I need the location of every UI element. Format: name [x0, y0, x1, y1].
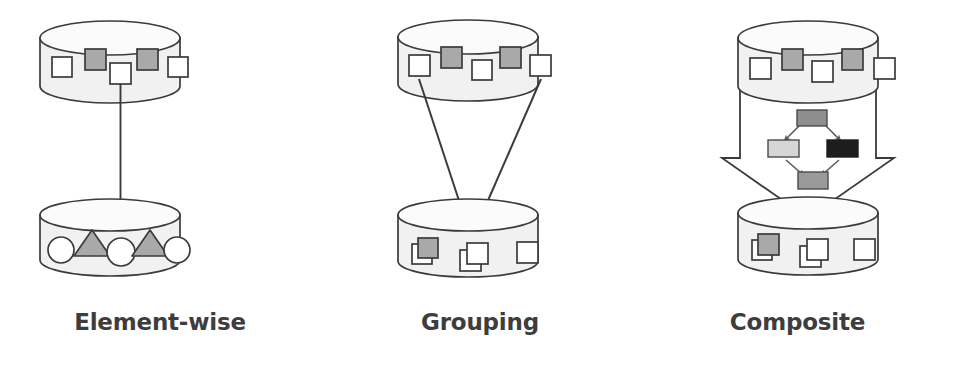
- shape-square-gray: [500, 47, 521, 68]
- shape-circle-white-selected: [107, 238, 135, 266]
- shape-square-white-selected: [110, 63, 131, 84]
- panel-label-grouping: Grouping: [320, 306, 640, 338]
- workflow-node-right: [827, 140, 858, 157]
- shape-square-white: [168, 57, 188, 77]
- shape-square-white-selected: [409, 55, 430, 76]
- panel-label-element-wise: Element-wise: [0, 306, 320, 338]
- shape-square-white: [52, 57, 72, 77]
- grouping-graphic: [320, 0, 640, 306]
- shape-square-gray: [137, 49, 158, 70]
- shape-square-white: [874, 58, 895, 79]
- panel-composite: Composite: [640, 0, 955, 373]
- shape-square-white-selected: [530, 55, 551, 76]
- diagram-canvas: Element-wise: [0, 0, 955, 373]
- shape-circle-white: [48, 237, 74, 263]
- shape-square-white: [812, 61, 833, 82]
- workflow-node-top: [797, 110, 827, 126]
- shape-square-gray: [842, 49, 863, 70]
- composite-graphic: [640, 0, 955, 306]
- shape-square-white: [750, 58, 771, 79]
- shape-square-white: [854, 239, 875, 260]
- shape-square-gray: [441, 47, 462, 68]
- element-wise-graphic: [0, 0, 320, 306]
- shape-square-gray: [85, 49, 106, 70]
- panel-element-wise: Element-wise: [0, 0, 320, 373]
- shape-square-gray: [782, 49, 803, 70]
- panel-label-composite: Composite: [640, 306, 955, 338]
- panel-grouping: Grouping: [320, 0, 640, 373]
- workflow-node-left: [768, 140, 799, 157]
- shape-circle-white: [164, 237, 190, 263]
- shape-square-white: [472, 60, 492, 80]
- shape-square-white: [517, 242, 538, 263]
- workflow-node-bottom: [798, 172, 828, 189]
